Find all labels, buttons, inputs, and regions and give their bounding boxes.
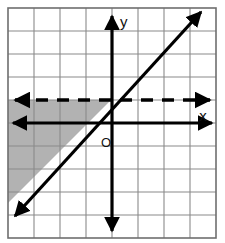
coordinate-plane-figure: y x O (0, 0, 225, 243)
graph-canvas: y x O (0, 0, 225, 243)
origin-label: O (101, 135, 111, 150)
x-axis-label: x (199, 107, 207, 124)
y-axis-label: y (120, 13, 128, 30)
